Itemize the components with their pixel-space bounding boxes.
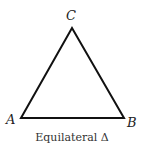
- caption: Equilateral Δ: [35, 131, 109, 144]
- equilateral-triangle-diagram: C A B Equilateral Δ: [0, 0, 142, 153]
- vertex-label-b: B: [126, 115, 137, 130]
- vertex-label-a: A: [5, 112, 15, 127]
- vertex-label-c: C: [66, 8, 76, 23]
- triangle-abc: [21, 28, 124, 118]
